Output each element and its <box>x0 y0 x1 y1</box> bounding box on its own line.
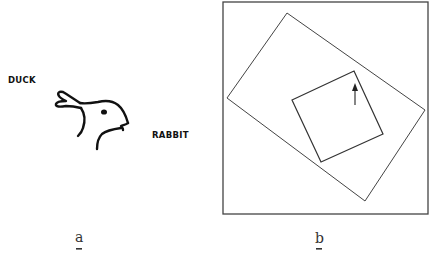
tilted-rectangle <box>227 13 425 201</box>
neck-back-stroke <box>78 108 84 136</box>
neck-front-stroke <box>97 128 121 149</box>
rabbit-label: RABBIT <box>152 130 189 140</box>
duck-rabbit-drawing <box>56 92 128 149</box>
ears-bill-stroke <box>56 92 81 108</box>
duck-label: DUCK <box>8 75 36 85</box>
figure-canvas: DUCK RABBIT a b <box>0 0 432 261</box>
arrow-up-icon <box>352 83 358 105</box>
outer-frame <box>223 2 428 214</box>
panel-b-underline <box>316 248 322 250</box>
mouth-stroke <box>121 123 128 130</box>
eye-icon <box>101 109 107 114</box>
panel-b-label: b <box>315 230 324 246</box>
panel-a-label: a <box>75 229 83 245</box>
panel-b: b <box>223 2 428 250</box>
panel-a-underline <box>76 248 82 250</box>
inner-tilted-square <box>292 71 383 162</box>
panel-a: DUCK RABBIT a <box>8 75 189 250</box>
